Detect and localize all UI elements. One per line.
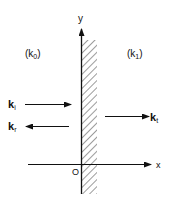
region-left-label: (k0) [25, 48, 41, 60]
svg-text:(k0): (k0) [25, 48, 41, 60]
transmitted-wave: kt [105, 111, 158, 124]
svg-text:(k1): (k1) [127, 48, 143, 60]
wave-interface-diagram: y x O (k0) (k1) ki kr kt [0, 0, 171, 207]
region-right-label: (k1) [127, 48, 143, 60]
origin-label: O [72, 167, 79, 177]
incident-wave: ki [8, 98, 71, 111]
svg-text:kr: kr [8, 120, 17, 133]
interface-slab [82, 40, 97, 194]
reflected-wave: kr [8, 120, 69, 133]
svg-text:ki: ki [8, 98, 16, 111]
svg-text:kt: kt [150, 111, 158, 124]
x-axis-label: x [156, 160, 161, 170]
y-axis-label: y [78, 13, 83, 24]
